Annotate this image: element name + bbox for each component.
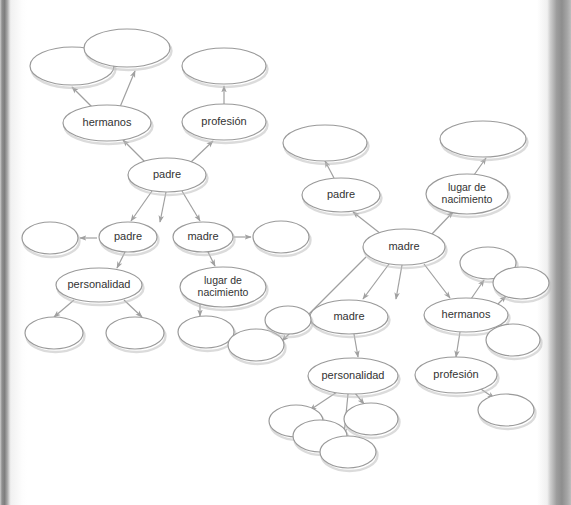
edge-arrow xyxy=(396,265,402,299)
node-ellipse[interactable] xyxy=(63,105,151,141)
concept-node-empty[interactable] xyxy=(253,221,311,256)
edge-arrow xyxy=(120,71,135,107)
node-ellipse[interactable] xyxy=(265,306,311,334)
edge-arrow xyxy=(471,280,484,299)
node-ellipse[interactable] xyxy=(173,222,233,252)
node-ellipse[interactable] xyxy=(283,125,367,161)
node-ellipse[interactable] xyxy=(56,268,142,302)
node-ellipse[interactable] xyxy=(320,436,376,468)
concept-node-empty[interactable] xyxy=(265,306,313,337)
edge-arrow xyxy=(355,393,364,404)
concept-node-personalidad[interactable]: personalidad xyxy=(308,358,400,397)
node-ellipse[interactable] xyxy=(493,267,549,299)
edge-arrow xyxy=(363,264,389,299)
concept-node-padre[interactable]: padre xyxy=(99,222,159,255)
concept-node-empty[interactable] xyxy=(84,29,172,70)
node-ellipse[interactable] xyxy=(478,394,534,426)
node-ellipse[interactable] xyxy=(106,317,164,349)
concept-node-empty[interactable] xyxy=(106,317,166,352)
node-ellipse[interactable] xyxy=(344,403,398,435)
edge-arrow xyxy=(182,191,200,221)
concept-node-empty[interactable] xyxy=(486,324,542,359)
concept-node-empty[interactable] xyxy=(25,317,85,352)
node-ellipse[interactable] xyxy=(180,267,266,307)
node-ellipse[interactable] xyxy=(182,48,266,84)
edge-arrow xyxy=(160,192,166,222)
concept-node-personalidad[interactable]: personalidad xyxy=(56,268,144,305)
concept-node-profesión[interactable]: profesión xyxy=(415,357,499,396)
concept-node-lugar-de-nacimiento[interactable]: lugar denacimiento xyxy=(426,174,510,217)
concept-node-madre[interactable]: madre xyxy=(363,229,447,268)
node-ellipse[interactable] xyxy=(128,158,206,192)
edge-arrow xyxy=(54,300,74,317)
node-ellipse[interactable] xyxy=(25,317,83,349)
edge-arrow xyxy=(72,87,92,107)
node-ellipse[interactable] xyxy=(363,229,445,265)
node-ellipse[interactable] xyxy=(426,174,508,214)
concept-node-padre[interactable]: padre xyxy=(302,178,382,215)
page-spread: hermanosprofesiónpadrepadremadrepersonal… xyxy=(0,0,571,505)
node-ellipse[interactable] xyxy=(178,316,234,348)
concept-node-empty[interactable] xyxy=(22,222,80,257)
concept-node-empty[interactable] xyxy=(493,267,551,302)
edge-arrow xyxy=(131,191,152,221)
concept-node-empty[interactable] xyxy=(440,121,528,160)
concept-node-madre[interactable]: madre xyxy=(310,300,390,337)
node-ellipse[interactable] xyxy=(182,104,266,140)
concept-node-padre[interactable]: padre xyxy=(128,158,208,195)
concept-map-canvas: hermanosprofesiónpadrepadremadrepersonal… xyxy=(0,0,571,505)
concept-node-empty[interactable] xyxy=(182,48,268,87)
node-ellipse[interactable] xyxy=(22,222,78,254)
concept-node-hermanos[interactable]: hermanos xyxy=(63,105,153,144)
concept-node-madre[interactable]: madre xyxy=(173,222,235,255)
concept-node-profesión[interactable]: profesión xyxy=(182,104,268,143)
edge-arrow xyxy=(424,264,450,298)
node-ellipse[interactable] xyxy=(310,300,388,334)
node-layer: hermanosprofesiónpadrepadremadrepersonal… xyxy=(22,29,551,471)
node-ellipse[interactable] xyxy=(308,358,398,394)
concept-node-empty[interactable] xyxy=(320,436,378,471)
edge-arrow xyxy=(190,141,213,163)
node-ellipse[interactable] xyxy=(99,222,157,252)
concept-node-empty[interactable] xyxy=(283,125,369,164)
concept-node-empty[interactable] xyxy=(344,403,400,438)
node-ellipse[interactable] xyxy=(84,29,170,67)
node-ellipse[interactable] xyxy=(486,324,540,356)
concept-node-empty[interactable] xyxy=(178,316,236,351)
node-ellipse[interactable] xyxy=(440,121,526,157)
node-ellipse[interactable] xyxy=(424,298,508,332)
node-ellipse[interactable] xyxy=(302,178,380,212)
node-ellipse[interactable] xyxy=(253,221,309,253)
node-ellipse[interactable] xyxy=(415,357,497,393)
concept-node-lugar-de-nacimiento[interactable]: lugar denacimiento xyxy=(180,267,268,310)
concept-node-empty[interactable] xyxy=(478,394,536,429)
edge-arrow xyxy=(353,212,381,234)
